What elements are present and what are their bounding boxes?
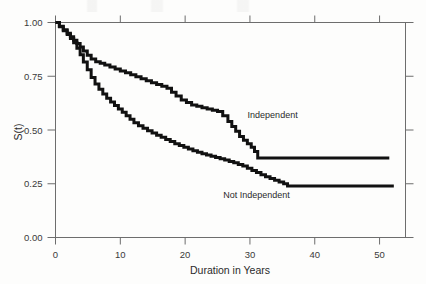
- x-tick-label: 40: [309, 249, 320, 260]
- y-tick-label: 0.25: [24, 178, 43, 189]
- series-annotation-independent: Independent: [248, 110, 299, 120]
- plot-frame: [56, 23, 406, 238]
- y-tick-label: 0.75: [24, 71, 43, 82]
- x-tick-label: 20: [180, 249, 191, 260]
- x-axis-tick-labels: 01020304050: [53, 249, 385, 260]
- y-axis-ticks-right: [406, 23, 414, 238]
- x-tick-label: 30: [245, 249, 256, 260]
- survival-curve-chart: 01020304050 0.000.250.500.751.00 Indepen…: [0, 0, 426, 284]
- x-axis-label: Duration in Years: [190, 264, 270, 276]
- x-axis-ticks-top: [56, 16, 380, 23]
- survival-curve-independent: [56, 23, 390, 158]
- x-tick-label: 0: [53, 249, 58, 260]
- x-axis-ticks-bottom: [56, 238, 380, 245]
- survival-curves: [56, 23, 394, 186]
- y-tick-label: 1.00: [24, 17, 43, 28]
- series-annotation-not-independent: Not Independent: [223, 190, 290, 200]
- y-tick-label: 0.00: [24, 232, 43, 243]
- y-tick-label: 0.50: [24, 125, 43, 136]
- y-axis-tick-labels: 0.000.250.500.751.00: [24, 17, 43, 243]
- chart-page: 01020304050 0.000.250.500.751.00 Indepen…: [0, 0, 426, 284]
- x-tick-label: 10: [115, 249, 126, 260]
- x-tick-label: 50: [374, 249, 385, 260]
- survival-curve-not-independent: [56, 23, 394, 186]
- y-axis-label: S(t): [12, 124, 24, 141]
- y-axis-ticks-left: [48, 23, 56, 238]
